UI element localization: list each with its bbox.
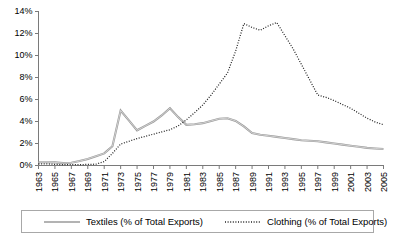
series-line-textiles: [39, 108, 384, 163]
legend-swatch-solid-icon: [44, 218, 80, 226]
x-axis-tick-label: 1979: [165, 172, 175, 192]
x-axis-tick-label: 2001: [346, 172, 356, 192]
legend-label-textiles: Textiles (% of Total Exports): [86, 216, 203, 227]
x-axis-tick-label: 2005: [379, 172, 389, 192]
line-chart-plot: 0%2%4%6%8%10%12%14% 19631965196719691971…: [0, 0, 396, 210]
x-axis-tick-label: 2003: [363, 172, 373, 192]
y-axis-tick-label: 4%: [19, 116, 32, 126]
x-axis-tick-label: 1987: [231, 172, 241, 192]
y-axis-tick-label: 6%: [19, 94, 32, 104]
chart-legend: Textiles (% of Total Exports) Clothing (…: [21, 210, 374, 233]
x-axis-tick-label: 1963: [34, 172, 44, 192]
x-axis-tick-label: 1993: [280, 172, 290, 192]
x-axis-tick-label: 1973: [116, 172, 126, 192]
chart-container: 0%2%4%6%8%10%12%14% 19631965196719691971…: [0, 0, 396, 238]
legend-swatch-dotted-icon: [225, 218, 261, 226]
legend-label-clothing: Clothing (% of Total Exports): [267, 216, 387, 227]
x-axis-tick-label: 1989: [248, 172, 258, 192]
x-axis-tick-label: 1983: [198, 172, 208, 192]
x-axis-tick-label: 1967: [67, 172, 77, 192]
x-axis-tick-label: 1995: [297, 172, 307, 192]
y-axis-tick-label: 14%: [14, 6, 32, 16]
y-axis-tick-label: 2%: [19, 138, 32, 148]
x-axis-tick-label: 1965: [50, 172, 60, 192]
x-axis-tick-label: 1971: [100, 172, 110, 192]
x-axis-tick-label: 1991: [264, 172, 274, 192]
x-axis-tick-label: 1997: [313, 172, 323, 192]
y-axis-tick-label: 0%: [19, 160, 32, 170]
data-series-group: [39, 23, 384, 165]
x-axis-tick-label: 1981: [182, 172, 192, 192]
x-axis-tick-label: 1977: [149, 172, 159, 192]
y-axis-tick-label: 10%: [14, 50, 32, 60]
x-axis-tick-label: 1975: [133, 172, 143, 192]
x-axis-tick-label: 1999: [330, 172, 340, 192]
x-axis: 1963196519671969197119731975197719791981…: [34, 166, 389, 193]
legend-entry-clothing: Clothing (% of Total Exports): [225, 216, 387, 227]
y-axis: 0%2%4%6%8%10%12%14%: [14, 6, 38, 170]
series-line-textiles-highlight: [39, 108, 384, 163]
y-axis-tick-label: 8%: [19, 72, 32, 82]
legend-entry-textiles: Textiles (% of Total Exports): [44, 216, 203, 227]
x-axis-tick-label: 1985: [215, 172, 225, 192]
y-axis-tick-label: 12%: [14, 28, 32, 38]
x-axis-tick-label: 1969: [83, 172, 93, 192]
